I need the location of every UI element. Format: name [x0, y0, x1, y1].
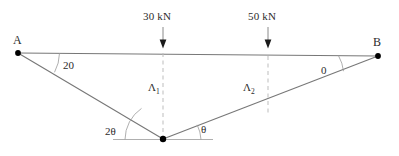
member-label-lambda-2-sub: 2	[251, 87, 255, 96]
member-label-lambda-1-text: Λ	[148, 81, 156, 93]
node-b-pin	[375, 53, 381, 59]
angle-label-at-b: 0	[321, 65, 327, 76]
angle-label-at-a: 20	[63, 60, 74, 71]
member-label-lambda-2: Λ2	[243, 82, 255, 96]
node-a-pin	[15, 50, 21, 56]
left-inclined-member	[18, 53, 163, 139]
top-chord-member	[18, 53, 378, 56]
right-inclined-member	[163, 56, 378, 139]
member-label-lambda-1: Λ1	[148, 82, 160, 96]
angle-arc-at-b	[339, 56, 344, 71]
statics-diagram-figure: 30 kN 50 kN A B 20 0 Λ1 Λ2 2θ θ	[0, 0, 399, 156]
support-label-b: B	[373, 36, 381, 48]
load-label-50kn: 50 kN	[248, 11, 276, 22]
load-label-30kn: 30 kN	[143, 11, 171, 22]
node-joint-pin	[160, 136, 166, 142]
load-arrow-50kn	[265, 27, 272, 49]
angle-label-joint-right: θ	[201, 124, 206, 135]
load-arrow-30kn	[160, 27, 167, 49]
angle-arc-at-a	[55, 53, 60, 72]
support-label-a: A	[13, 34, 22, 46]
angle-arc-joint-left	[125, 108, 142, 139]
diagram-canvas	[0, 0, 399, 156]
angle-label-joint-left: 2θ	[105, 126, 116, 137]
member-label-lambda-2-text: Λ	[243, 81, 251, 93]
member-label-lambda-1-sub: 1	[156, 87, 160, 96]
